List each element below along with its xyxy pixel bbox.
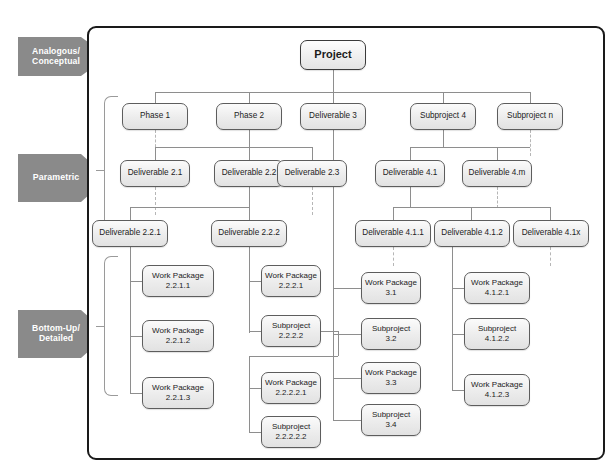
connector-drop-deliverable3 (333, 92, 334, 103)
connector-stub-221-2 (130, 336, 142, 337)
node-subproject-2-2-2-2[interactable]: Subproject 2.2.2.2 (261, 315, 321, 347)
dashed-deliverable21 (155, 187, 156, 215)
node-subproject-n[interactable]: Subproject n (497, 103, 563, 130)
connector-phase2-stem (249, 130, 250, 147)
connector-level2-left-bus (155, 147, 312, 148)
node-work-package-4-1-2-1[interactable]: Work Package 4.1.2.1 (464, 272, 530, 304)
connector-col22222-trunk (249, 356, 250, 432)
node-deliverable-4-1-1[interactable]: Deliverable 4.1.1 (355, 220, 431, 247)
node-work-package-4-1-2-3[interactable]: Work Package 4.1.2.3 (464, 374, 530, 406)
connector-drop-deliverable21 (155, 147, 156, 160)
connector-stub-22222-2 (249, 432, 261, 433)
connector-subproject4-stem (443, 130, 444, 147)
node-work-package-2-2-1-1[interactable]: Work Package 2.2.1.1 (142, 265, 214, 297)
node-deliverable-4-1[interactable]: Deliverable 4.1 (375, 160, 445, 187)
node-project[interactable]: Project (300, 40, 366, 70)
dashed-deliverable23 (312, 187, 313, 215)
connector-stub-412-3 (452, 390, 464, 391)
node-work-package-2-2-1-3[interactable]: Work Package 2.2.1.3 (142, 377, 214, 409)
connector-stub-222-2 (249, 331, 261, 332)
connector-sp2222-right (321, 331, 338, 332)
node-deliverable-4-1-2[interactable]: Deliverable 4.1.2 (434, 220, 510, 247)
connector-drop-deliverable23 (312, 147, 313, 160)
node-deliverable-2-2[interactable]: Deliverable 2.2 (214, 160, 284, 187)
connector-drop-deliverable22 (249, 147, 250, 160)
connector-stub-221-3 (130, 393, 142, 394)
connector-drop-deliverable41 (410, 147, 411, 160)
connector-col221-trunk (130, 247, 131, 394)
connector-col412-trunk (452, 247, 453, 390)
connector-deliverable22-stem (249, 187, 250, 207)
connector-level2-right-bus (410, 147, 530, 148)
node-work-package-2-2-2-1[interactable]: Work Package 2.2.2.1 (261, 265, 321, 297)
wbs-diagram: Analogous/ Conceptual Parametric Bottom-… (0, 0, 613, 473)
connector-stub-22222-1 (249, 388, 261, 389)
connector-drop-deliverable4m (497, 147, 498, 160)
node-phase-2[interactable]: Phase 2 (216, 103, 282, 130)
dashed-deliverable41x (550, 247, 551, 266)
connector-drop-phase1 (155, 92, 156, 103)
node-deliverable-2-3[interactable]: Deliverable 2.3 (277, 160, 347, 187)
node-subproject-4[interactable]: Subproject 4 (410, 103, 476, 130)
connector-drop-deliverable411 (393, 207, 394, 220)
connector-drop-subproject4 (443, 92, 444, 103)
node-deliverable-4-1-x[interactable]: Deliverable 4.1x (513, 220, 589, 247)
bracket-parametric-nub (96, 170, 105, 171)
connector-stub-3-4 (333, 420, 361, 421)
estimating-level-bottom-up-label: Bottom-Up/ Detailed (18, 324, 108, 343)
connector-root-stem (333, 70, 334, 92)
node-deliverable-2-2-1[interactable]: Deliverable 2.2.1 (92, 220, 168, 247)
connector-stub-3-3 (333, 378, 361, 379)
node-phase-1[interactable]: Phase 1 (122, 103, 188, 130)
node-subproject-4-1-2-2[interactable]: Subproject 4.1.2.2 (464, 318, 530, 350)
connector-sp2222-back (249, 356, 338, 357)
node-subproject-3-2[interactable]: Subproject 3.2 (361, 318, 421, 350)
connector-stub-412-2 (452, 334, 464, 335)
connector-drop-phase2 (249, 92, 250, 103)
connector-drop-deliverable221 (130, 207, 131, 220)
node-deliverable-2-1[interactable]: Deliverable 2.1 (120, 160, 190, 187)
node-work-package-2-2-1-2[interactable]: Work Package 2.2.1.2 (142, 320, 214, 352)
dashed-subprojectn (530, 130, 531, 156)
estimating-level-parametric-label: Parametric (33, 173, 93, 183)
connector-col222-trunk (249, 247, 250, 333)
connector-level1-bus (155, 92, 530, 93)
node-deliverable-2-2-2[interactable]: Deliverable 2.2.2 (211, 220, 287, 247)
connector-drop-deliverable412 (471, 207, 472, 220)
connector-stub-221-1 (130, 281, 142, 282)
connector-stub-3-1 (333, 288, 361, 289)
connector-stub-3-2 (333, 334, 361, 335)
dashed-deliverable411 (393, 247, 394, 266)
node-deliverable-3[interactable]: Deliverable 3 (300, 103, 366, 130)
connector-stub-222-1 (249, 281, 261, 282)
connector-drop-deliverable222 (249, 207, 250, 220)
node-work-package-3-3[interactable]: Work Package 3.3 (361, 362, 421, 394)
node-work-package-2-2-2-2-1[interactable]: Work Package 2.2.2.2.1 (261, 372, 321, 404)
connector-drop-subprojectn (530, 92, 531, 103)
connector-drop-deliverable41x (550, 207, 551, 220)
estimating-level-analogous-label: Analogous/ Conceptual (18, 47, 108, 66)
node-work-package-3-1[interactable]: Work Package 3.1 (361, 272, 421, 304)
connector-deliverable41-stem (410, 187, 411, 207)
dashed-deliverable4m (497, 187, 498, 208)
node-deliverable-4-m[interactable]: Deliverable 4.m (462, 160, 532, 187)
connector-stub-412-1 (452, 288, 464, 289)
connector-level3-left-bus (130, 207, 250, 208)
node-subproject-2-2-2-2-2[interactable]: Subproject 2.2.2.2.2 (261, 416, 321, 448)
node-subproject-3-4[interactable]: Subproject 3.4 (361, 404, 421, 436)
